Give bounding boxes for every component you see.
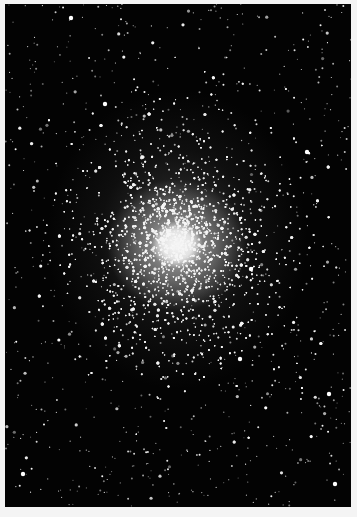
- star-cluster-photo: [5, 4, 351, 507]
- star-field: [5, 4, 351, 507]
